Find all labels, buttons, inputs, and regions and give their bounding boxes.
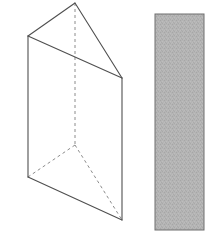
shaded-rectangle	[155, 14, 204, 230]
geometry-figure	[0, 0, 215, 246]
